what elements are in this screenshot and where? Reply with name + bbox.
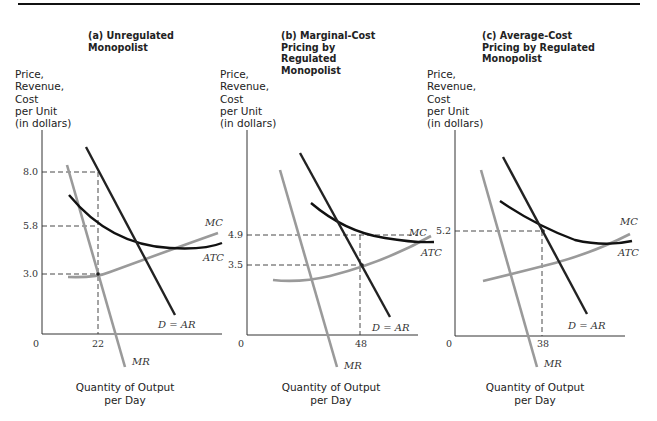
panel-b-xtick-48: 48: [355, 338, 367, 349]
panel-a-xtick-22: 22: [92, 338, 104, 349]
panel-b-point: [360, 263, 364, 267]
panel-a-origin: 0: [33, 338, 39, 349]
panel-a-mr-curve: [67, 165, 125, 367]
panel-b-mr-curve: [280, 170, 337, 367]
panel-b-origin: 0: [238, 338, 244, 349]
panel-a-atc-label: ATC: [202, 252, 224, 263]
panel-c-ytick-5-2: 5.2: [436, 225, 451, 236]
panel-c-mr-label: MR: [543, 358, 562, 369]
panel-b-mc-label: MC: [408, 227, 427, 238]
panel-a-ytick-5-8: 5.8: [23, 220, 38, 231]
panel-b-demand-label: D = AR: [371, 322, 410, 333]
panel-c-origin: 0: [446, 338, 452, 349]
panel-a-point: [96, 272, 100, 276]
panel-b-ytick-4-9: 4.9: [228, 229, 243, 240]
panel-a-demand-curve: [86, 147, 175, 315]
panel-c-guides: [455, 231, 542, 336]
panel-a-chart: 8.0 5.8 3.0 0 22 MC ATC D = AR MR: [23, 130, 224, 367]
panel-a-ytick-8: 8.0: [23, 166, 38, 177]
panel-a-mc-label: MC: [204, 217, 223, 228]
panel-a-mr-label: MR: [131, 356, 150, 367]
panel-c-demand-label: D = AR: [567, 320, 606, 331]
panel-c-chart: 5.2 0 38 MC ATC D = AR MR: [436, 130, 639, 369]
charts-canvas: 8.0 5.8 3.0 0 22 MC ATC D = AR MR 4.9 3.…: [0, 0, 657, 421]
panel-a-ytick-3: 3.0: [23, 268, 38, 279]
panel-b-chart: 4.9 3.5 0 48 MC ATC D = AR MR: [228, 130, 442, 371]
panel-b-guides: [247, 235, 418, 335]
panel-c-atc-label: ATC: [617, 247, 639, 258]
panel-b-atc-label: ATC: [420, 247, 442, 258]
panel-b-ytick-3-5: 3.5: [228, 259, 243, 270]
panel-b-mr-label: MR: [343, 360, 362, 371]
panel-c-xtick-38: 38: [537, 338, 549, 349]
panel-a-demand-label: D = AR: [157, 319, 196, 330]
panel-c-atc-curve: [500, 201, 632, 244]
panel-c-mc-label: MC: [619, 216, 638, 227]
panel-c-point: [541, 229, 545, 233]
panel-b-mc-curve: [273, 236, 431, 281]
